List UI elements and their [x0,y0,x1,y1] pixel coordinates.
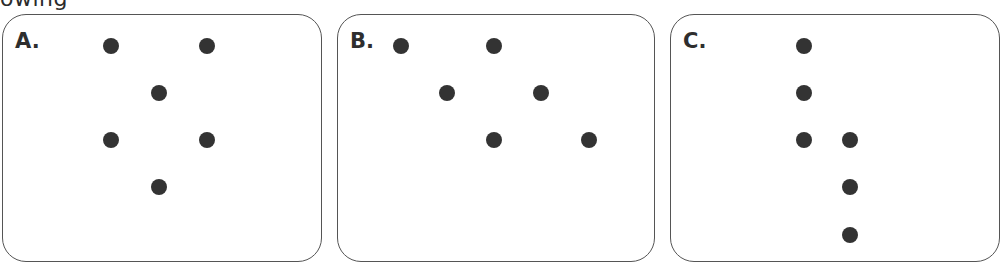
dot-c-1 [796,38,812,54]
dot-b-4 [533,85,549,101]
dot-c-4 [842,132,858,148]
dot-c-6 [842,227,858,243]
dot-a-6 [151,179,167,195]
panel-a[interactable]: A. [2,14,322,262]
caption-fragment: owing [0,0,68,11]
dot-b-5 [486,132,502,148]
dot-a-1 [103,38,119,54]
dot-b-3 [439,85,455,101]
panel-label: C. [683,31,706,52]
dot-a-3 [151,85,167,101]
dot-c-5 [842,179,858,195]
dot-b-2 [486,38,502,54]
panel-label: B. [350,31,374,52]
dot-a-5 [199,132,215,148]
dot-b-1 [393,38,409,54]
dot-c-3 [796,132,812,148]
dot-b-6 [581,132,597,148]
panel-label: A. [15,31,40,52]
dot-a-4 [103,132,119,148]
panel-c[interactable]: C. [670,14,1000,262]
dot-a-2 [199,38,215,54]
dot-c-2 [796,85,812,101]
